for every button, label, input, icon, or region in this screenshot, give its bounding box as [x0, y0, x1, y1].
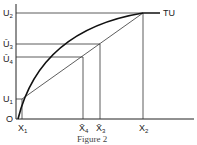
u2-label: U2 [3, 8, 14, 19]
x4-label: X̄4 [79, 123, 89, 134]
x3-label: X̄3 [96, 123, 106, 134]
origin-label: O [6, 114, 13, 124]
figure-caption: Figure 2 [77, 134, 107, 144]
chord-line [22, 13, 143, 99]
utility-diagram: TU U2 Ū3 Ū4 U1 O X1 X̄4 X̄3 X2 Figure 2 [0, 0, 197, 145]
x1-label: X1 [18, 123, 28, 134]
tu-curve [18, 13, 160, 119]
u3-label: Ū3 [3, 39, 14, 50]
tu-label: TU [163, 8, 175, 18]
u4-label: Ū4 [3, 54, 14, 65]
x2-label: X2 [139, 123, 149, 134]
u1-label: U1 [3, 94, 14, 105]
